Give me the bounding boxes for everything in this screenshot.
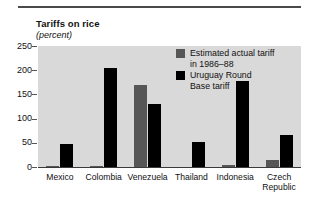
bar-group (126, 46, 170, 167)
bar-group (38, 46, 82, 167)
chart-title: Tariffs on rice (36, 18, 100, 29)
legend-item-label: Estimated actual tariffin 1986–88 (190, 48, 274, 69)
bar-uruguay-base-tariff[interactable] (104, 68, 117, 167)
y-axis-tick-mark (32, 119, 37, 120)
legend-item-actual[interactable]: Estimated actual tariffin 1986–88 (176, 48, 274, 69)
legend-item-label-line: Estimated actual tariff (190, 48, 274, 59)
x-axis-line (38, 167, 301, 168)
y-axis-tick-mark (32, 94, 37, 95)
bar-uruguay-base-tariff[interactable] (192, 142, 205, 167)
bar-actual-tariff[interactable] (90, 166, 103, 167)
y-axis-tick-mark (32, 46, 37, 47)
y-axis-tick-mark (32, 167, 37, 168)
y-axis-labels: 250200150100500 (2, 0, 32, 201)
bar-actual-tariff[interactable] (134, 85, 147, 167)
bar-uruguay-base-tariff[interactable] (148, 104, 161, 167)
bar-actual-tariff[interactable] (266, 160, 279, 167)
x-axis-tick-label-line: Republic (251, 182, 307, 192)
bar-uruguay-base-tariff[interactable] (236, 81, 249, 167)
bar-actual-tariff[interactable] (222, 165, 235, 167)
y-axis-tick-label: 200 (4, 66, 32, 75)
legend-item-label-line: in 1986–88 (190, 59, 274, 70)
legend-swatch-icon (176, 71, 185, 80)
legend-item-label: Uruguay RoundBase tariff (190, 70, 252, 91)
legend-swatch-icon (176, 49, 185, 58)
y-axis-tick-label: 50 (4, 138, 32, 147)
y-axis-tick-label: 100 (4, 114, 32, 123)
legend-item-uruguay[interactable]: Uruguay RoundBase tariff (176, 70, 274, 91)
y-axis-tick-label: 250 (4, 42, 32, 51)
header-divider (18, 6, 301, 8)
chart-subtitle: (percent) (36, 30, 72, 40)
x-axis-tick-label: CzechRepublic (251, 172, 307, 192)
y-axis-tick-mark (32, 70, 37, 71)
bar-uruguay-base-tariff[interactable] (60, 144, 73, 167)
bar-uruguay-base-tariff[interactable] (280, 135, 293, 167)
bar-group (82, 46, 126, 167)
bar-actual-tariff[interactable] (46, 166, 59, 167)
legend-item-label-line: Base tariff (190, 81, 252, 92)
y-axis-tick-mark (32, 143, 37, 144)
legend-item-label-line: Uruguay Round (190, 70, 252, 81)
x-axis-tick-label-line: Czech (251, 172, 307, 182)
chart-figure: Tariffs on rice (percent) 25020015010050… (0, 0, 319, 201)
y-axis-tick-label: 150 (4, 90, 32, 99)
chart-legend: Estimated actual tariffin 1986–88Uruguay… (176, 48, 274, 92)
y-axis-tick-label: 0 (4, 163, 32, 172)
